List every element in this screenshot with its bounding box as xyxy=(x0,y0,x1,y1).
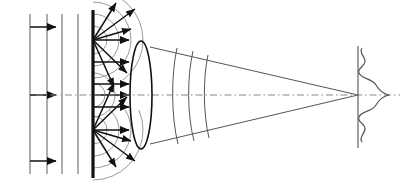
figure-background xyxy=(0,0,405,187)
diffraction-diagram-svg xyxy=(0,0,405,187)
optics-diffraction-figure xyxy=(0,0,405,187)
